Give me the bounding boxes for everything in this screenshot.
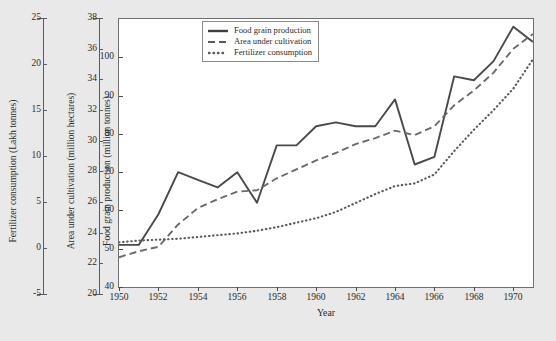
x-axis-tick [395, 287, 396, 291]
x-axis-tick [434, 287, 435, 291]
production-axis-tick-label: 60 [92, 205, 114, 215]
axis-tick-label: 15 [32, 105, 42, 115]
axis-tick-label: 0 [36, 243, 41, 253]
axis-tick-label: 22 [88, 258, 98, 268]
x-axis-tick-label: 1966 [425, 293, 444, 303]
axis-tick [43, 248, 47, 249]
production-axis-tick-label: 50 [92, 244, 114, 254]
x-axis-tick [513, 287, 514, 291]
legend-entry-fertilizer: Fertilizer consumption [207, 47, 312, 58]
axis-tick [43, 64, 47, 65]
axis-tick-label: 10 [32, 151, 42, 161]
x-axis-tick [119, 287, 120, 291]
legend-entry-area: Area under cultivation [207, 36, 312, 47]
legend-entry-production: Food grain production [207, 25, 312, 36]
axis-tick-label: 20 [32, 59, 42, 69]
x-axis-tick-label: 1962 [347, 293, 366, 303]
axis-tick [43, 294, 47, 295]
axis-tick [99, 294, 103, 295]
production-axis-tick [119, 210, 123, 211]
x-axis-tick-label: 1964 [386, 293, 405, 303]
axis-tick [43, 202, 47, 203]
fertilizer-consumption-axis: Fertilizer consumption (Lakh tonnes) 252… [0, 0, 56, 341]
axis-tick-label: 32 [88, 105, 98, 115]
x-axis-tick-label: 1968 [465, 293, 484, 303]
legend-label-production: Food grain production [234, 26, 311, 35]
x-axis-tick-label: 1952 [149, 293, 168, 303]
dotted-line-swatch [207, 48, 229, 58]
axis-tick [43, 18, 47, 19]
line-food-grain-production [119, 27, 533, 245]
axis-tick-label: 25 [32, 13, 42, 23]
production-axis-tick-label: 90 [92, 91, 114, 101]
fertilizer-axis-title: Fertilizer consumption (Lakh tonnes) [7, 99, 18, 242]
legend-label-fertilizer: Fertilizer consumption [234, 48, 312, 57]
series-lines [119, 19, 533, 287]
x-axis-tick [237, 287, 238, 291]
axis-tick-label: 38 [88, 13, 98, 23]
axis-tick-label: 5 [36, 197, 41, 207]
production-axis-tick [119, 57, 123, 58]
x-axis-tick [158, 287, 159, 291]
axis-tick-label: -5 [33, 289, 41, 299]
production-axis-tick [119, 96, 123, 97]
production-axis-tick [119, 134, 123, 135]
production-axis-tick-label: 100 [92, 52, 114, 62]
area-axis-title: Area under cultivation (million hectares… [65, 92, 76, 249]
axis-tick [99, 49, 103, 50]
axis-tick [99, 18, 103, 19]
x-axis-tick-label: 1954 [189, 293, 208, 303]
plot-area: Food grain production Area under cultiva… [118, 18, 534, 288]
axis-tick [99, 79, 103, 80]
axis-tick [43, 156, 47, 157]
production-axis-tick-label: 40 [92, 282, 114, 292]
x-axis-tick [277, 287, 278, 291]
x-axis-tick-label: 1956 [228, 293, 247, 303]
line-area-under-cultivation [119, 34, 533, 257]
x-axis-tick [316, 287, 317, 291]
production-axis-tick [119, 172, 123, 173]
x-axis-tick [474, 287, 475, 291]
x-axis-tick-label: 1958 [268, 293, 287, 303]
axis-tick [43, 110, 47, 111]
solid-line-swatch [207, 26, 229, 36]
x-axis-tick [198, 287, 199, 291]
axis-tick-label: 24 [88, 228, 98, 238]
axis-tick [99, 263, 103, 264]
legend-label-area: Area under cultivation [234, 37, 311, 46]
x-axis-tick-label: 1970 [504, 293, 523, 303]
chart-figure: Fertilizer consumption (Lakh tonnes) 252… [0, 0, 556, 341]
x-axis-tick [356, 287, 357, 291]
production-axis-tick-label: 70 [92, 167, 114, 177]
x-axis-title: Year [317, 307, 335, 318]
x-axis-tick-label: 1960 [307, 293, 326, 303]
line-fertilizer-consumption [119, 59, 533, 242]
axis-tick-label: 34 [88, 74, 98, 84]
legend: Food grain production Area under cultiva… [202, 21, 319, 62]
x-axis-tick-label: 1950 [110, 293, 129, 303]
dashed-line-swatch [207, 37, 229, 47]
production-axis-tick-label: 80 [92, 129, 114, 139]
production-axis-tick [119, 249, 123, 250]
